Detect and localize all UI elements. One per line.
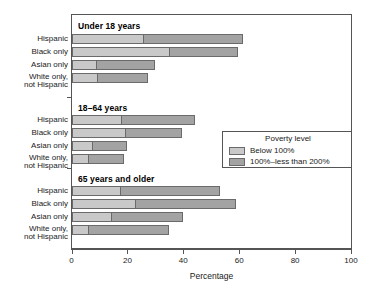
bar-segment-below-100 bbox=[72, 212, 113, 222]
x-tick-label: 100 bbox=[336, 256, 366, 265]
category-label: Hispanic bbox=[0, 116, 68, 125]
bar-segment-100-to-200 bbox=[143, 34, 244, 44]
legend-swatch-below-100 bbox=[229, 147, 245, 155]
legend: Poverty level Below 100% 100%–less than … bbox=[222, 131, 352, 168]
group-separator-tick-0 bbox=[67, 97, 72, 98]
category-label: White only,not Hispanic bbox=[0, 73, 68, 89]
bar-segment-100-to-200 bbox=[97, 73, 148, 83]
bar-row bbox=[72, 212, 184, 222]
legend-item-below-100: Below 100% bbox=[229, 146, 294, 155]
x-tick-label: 20 bbox=[112, 256, 142, 265]
bar-row bbox=[72, 199, 237, 209]
bar-segment-below-100 bbox=[72, 154, 89, 164]
bar-row bbox=[72, 154, 125, 164]
legend-title: Poverty level bbox=[223, 134, 353, 143]
legend-label-100-to-200: 100%–less than 200% bbox=[250, 157, 330, 166]
bar-segment-below-100 bbox=[72, 186, 122, 196]
bar-row bbox=[72, 186, 220, 196]
bar-segment-below-100 bbox=[72, 225, 89, 235]
x-tick-label: 0 bbox=[57, 256, 87, 265]
bar-row bbox=[72, 128, 182, 138]
category-label: Asian only bbox=[0, 142, 68, 151]
bar-segment-100-to-200 bbox=[169, 47, 239, 57]
bar-segment-100-to-200 bbox=[88, 225, 169, 235]
bar-row bbox=[72, 141, 128, 151]
category-label: Hispanic bbox=[0, 187, 68, 196]
x-tick-label: 80 bbox=[280, 256, 310, 265]
x-tick-label: 60 bbox=[224, 256, 254, 265]
bar-row bbox=[72, 73, 149, 83]
bar-segment-100-to-200 bbox=[111, 212, 183, 222]
legend-label-below-100: Below 100% bbox=[250, 146, 294, 155]
bar-segment-below-100 bbox=[72, 141, 94, 151]
group-title-1: 18–64 years bbox=[78, 103, 127, 113]
bar-segment-100-to-200 bbox=[135, 199, 236, 209]
group-title-0: Under 18 years bbox=[78, 21, 140, 31]
bar-row bbox=[72, 225, 170, 235]
x-axis-line bbox=[71, 249, 352, 250]
bar-segment-100-to-200 bbox=[121, 115, 195, 125]
bar-segment-100-to-200 bbox=[125, 128, 181, 138]
bar-segment-below-100 bbox=[72, 128, 127, 138]
bar-segment-below-100 bbox=[72, 73, 99, 83]
bar-segment-100-to-200 bbox=[92, 141, 127, 151]
legend-swatch-100-to-200 bbox=[229, 158, 245, 166]
category-label: Black only bbox=[0, 200, 68, 209]
bar-segment-below-100 bbox=[72, 60, 98, 70]
legend-item-100-to-200: 100%–less than 200% bbox=[229, 157, 330, 166]
x-tick-label: 40 bbox=[168, 256, 198, 265]
category-label: White only,not Hispanic bbox=[0, 154, 68, 170]
group-separator-tick-1 bbox=[67, 168, 72, 169]
bar-row bbox=[72, 115, 196, 125]
group-title-2: 65 years and older bbox=[78, 174, 154, 184]
bar-segment-below-100 bbox=[72, 34, 144, 44]
category-label: White only,not Hispanic bbox=[0, 225, 68, 241]
category-label: Black only bbox=[0, 129, 68, 138]
category-label: Asian only bbox=[0, 213, 68, 222]
category-label: Black only bbox=[0, 48, 68, 57]
category-label: Asian only bbox=[0, 61, 68, 70]
bar-segment-below-100 bbox=[72, 47, 170, 57]
bar-row bbox=[72, 34, 244, 44]
category-label: Hispanic bbox=[0, 35, 68, 44]
bar-row bbox=[72, 47, 239, 57]
bar-segment-100-to-200 bbox=[88, 154, 124, 164]
bar-segment-100-to-200 bbox=[120, 186, 220, 196]
x-axis-title: Percentage bbox=[71, 271, 352, 281]
bar-segment-below-100 bbox=[72, 199, 137, 209]
bar-segment-below-100 bbox=[72, 115, 123, 125]
chart-root: HispanicBlack onlyAsian onlyWhite only,n… bbox=[0, 0, 373, 291]
bar-segment-100-to-200 bbox=[96, 60, 155, 70]
bar-row bbox=[72, 60, 156, 70]
